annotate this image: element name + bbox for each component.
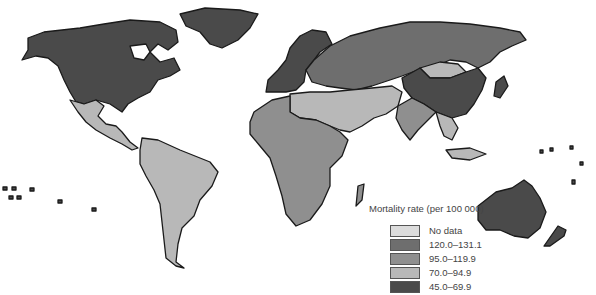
legend-swatch: [390, 225, 420, 237]
legend-swatch: [390, 253, 420, 265]
region-madagascar: [356, 184, 364, 206]
legend-swatch: [390, 281, 420, 293]
legend-label: 95.0–119.9: [429, 253, 476, 264]
legend-swatch: [390, 267, 420, 279]
legend-swatch: [390, 239, 420, 251]
region-japan: [494, 76, 508, 98]
region-central-america: [70, 100, 138, 150]
legend-item: 95.0–119.9: [390, 252, 482, 266]
region-southeast-asia: [436, 112, 486, 160]
region-new-zealand: [544, 226, 566, 246]
world-choropleth-map: [0, 0, 596, 295]
legend-item: 120.0–131.1: [390, 238, 482, 252]
legend-label: 45.0–69.9: [429, 281, 471, 292]
legend-label: 120.0–131.1: [429, 239, 482, 250]
region-south-america: [140, 138, 218, 268]
legend-label: 70.0–94.9: [429, 267, 471, 278]
legend-item: 45.0–69.9: [390, 280, 482, 294]
legend-item: 70.0–94.9: [390, 266, 482, 280]
legend-item: No data: [390, 224, 482, 238]
map-legend: No data 120.0–131.1 95.0–119.9 70.0–94.9…: [390, 224, 482, 294]
region-greenland: [180, 8, 258, 48]
region-australia: [478, 180, 546, 238]
legend-label: No data: [429, 225, 462, 236]
legend-title: Mortality rate (per 100 000): [369, 203, 484, 214]
region-north-america: [22, 20, 180, 112]
